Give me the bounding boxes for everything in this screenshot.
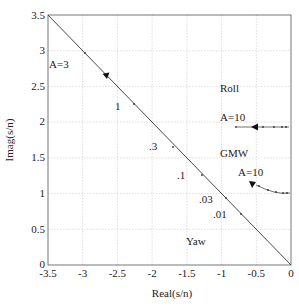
x-tick: -1 [217, 267, 226, 279]
annotation-001: .01 [213, 208, 227, 220]
annotation-03: .3 [149, 140, 158, 152]
annotation-gmw: GMW [220, 147, 249, 159]
x-tick: -2 [148, 267, 157, 279]
x-tick: -0.5 [248, 267, 266, 279]
annotation-roll: Roll [220, 82, 239, 94]
annotation-1: 1 [115, 100, 121, 112]
y-tick: 1.5 [31, 151, 45, 163]
annotation-a3: A=3 [49, 58, 69, 70]
y-axis-ticks: 0 0.5 1 1.5 2 2.5 3 3.5 [31, 9, 45, 271]
y-tick: 3 [40, 44, 46, 56]
y-axis-label: Imag(s/n) [3, 118, 16, 161]
x-tick: -2.5 [109, 267, 127, 279]
gmw-arrow-icon [249, 181, 256, 188]
annotation-yaw: Yaw [186, 235, 206, 247]
roll-arrow-icon [251, 124, 258, 131]
yaw-locus [48, 15, 291, 265]
annotation-003: .03 [199, 193, 213, 205]
x-tick: -3.5 [39, 267, 57, 279]
annotation-a10-roll: A=10 [220, 111, 246, 123]
annotation-01: .1 [177, 169, 185, 181]
y-tick: 2.5 [31, 80, 45, 92]
x-axis-label: Real(s/n) [152, 287, 193, 300]
gmw-locus [249, 181, 290, 194]
y-tick: 2 [40, 115, 46, 127]
roll-locus [235, 124, 289, 131]
x-tick: 0 [288, 267, 294, 279]
annotation-a10-gmw: A=10 [238, 166, 264, 178]
x-tick: -1.5 [178, 267, 196, 279]
x-axis-ticks: -3.5 -3 -2.5 -2 -1.5 -1 -0.5 0 [39, 267, 294, 279]
y-tick: 3.5 [31, 9, 45, 21]
y-tick: 0.5 [31, 223, 45, 235]
root-locus-chart: 0 0.5 1 1.5 2 2.5 3 3.5 -3.5 -3 -2.5 -2 … [0, 0, 299, 306]
y-tick: 1 [40, 187, 46, 199]
x-tick: -3 [78, 267, 88, 279]
